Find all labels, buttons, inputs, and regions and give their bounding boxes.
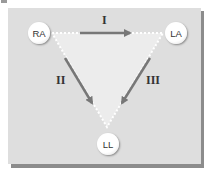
lead-ii-label: II xyxy=(56,73,65,88)
node-la: LA xyxy=(165,22,187,44)
node-ll: LL xyxy=(97,133,119,155)
node-ra: RA xyxy=(28,22,50,44)
lead-i-label: I xyxy=(102,13,107,28)
lead-iii-label: III xyxy=(146,73,160,88)
